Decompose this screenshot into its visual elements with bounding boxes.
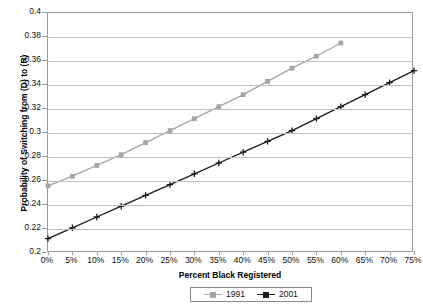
legend-label: 1991 (226, 290, 245, 299)
gridline (48, 181, 412, 182)
y-axis-tick-label: 0.28 (5, 151, 41, 160)
series-line (48, 43, 341, 186)
legend-label: 2001 (279, 290, 298, 299)
y-axis-tick-label: 0.26 (5, 175, 41, 184)
data-point-marker (94, 163, 99, 168)
legend-item-2001[interactable]: 2001 (257, 290, 298, 299)
data-point-marker (142, 192, 148, 198)
gridline (48, 229, 412, 230)
y-axis-tick-label: 0.4 (5, 7, 41, 16)
data-point-marker (313, 115, 319, 121)
x-axis-tick-label: 75% (398, 256, 423, 265)
gridline (48, 157, 412, 158)
series-1991 (46, 41, 344, 189)
gridline (48, 85, 412, 86)
legend-item-1991[interactable]: 1991 (204, 290, 245, 299)
data-point-marker (216, 160, 222, 166)
data-point-marker (70, 174, 75, 179)
data-point-marker (241, 92, 246, 97)
series-line (48, 71, 414, 239)
legend-line-icon (257, 294, 275, 295)
gridline (48, 205, 412, 206)
y-axis-tick-label: 0.38 (5, 31, 41, 40)
chart-container: Probability of Switching from (D) to (R)… (0, 0, 423, 306)
plus-marker-icon (263, 292, 269, 298)
data-point-marker (264, 138, 270, 144)
data-point-marker (167, 181, 173, 187)
x-axis-title: Percent Black Registered (47, 270, 413, 280)
data-point-marker (265, 79, 270, 84)
y-axis-tick-label: 0.34 (5, 79, 41, 88)
gridline (48, 133, 412, 134)
gridline (48, 109, 412, 110)
data-point-marker (290, 66, 295, 71)
square-marker-icon (210, 292, 216, 298)
y-axis-tick-label: 0.32 (5, 103, 41, 112)
data-point-marker (362, 91, 368, 97)
data-point-marker (191, 171, 197, 177)
gridline (48, 37, 412, 38)
data-point-marker (69, 225, 75, 231)
chart-legend: 1991 2001 (190, 287, 312, 302)
legend-line-icon (204, 294, 222, 295)
data-point-marker (143, 140, 148, 145)
y-axis-tick-label: 0.2 (5, 247, 41, 256)
y-axis-tick-label: 0.22 (5, 223, 41, 232)
data-point-marker (118, 203, 124, 209)
data-point-marker (192, 116, 197, 121)
data-point-marker (94, 214, 100, 220)
series-2001 (45, 67, 417, 241)
y-axis-tick-label: 0.36 (5, 55, 41, 64)
data-point-marker (314, 54, 319, 59)
y-axis-tick-label: 0.24 (5, 199, 41, 208)
y-axis-tick-label: 0.3 (5, 127, 41, 136)
gridline (48, 61, 412, 62)
data-point-marker (240, 149, 246, 155)
plot-area (47, 12, 413, 252)
y-axis-tick-mark (42, 252, 47, 253)
data-point-marker (46, 183, 51, 188)
data-point-marker (338, 41, 343, 46)
